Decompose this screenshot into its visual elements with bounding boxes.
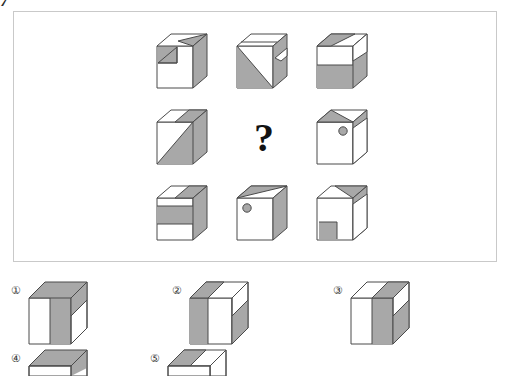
answer-option-4[interactable]: ④ <box>11 346 97 376</box>
answer-options: ① ② <box>0 270 509 367</box>
matrix-cell-r2c1[interactable] <box>144 100 224 176</box>
cube-r3c3 <box>313 182 375 246</box>
matrix-cell-r3c1[interactable] <box>144 176 224 252</box>
matrix-cell-r1c3[interactable] <box>304 24 384 100</box>
answer-option-5-cube <box>164 346 236 376</box>
cube-option-2 <box>186 278 258 348</box>
matrix-panel: ? <box>13 11 497 262</box>
answer-option-1-label: ① <box>11 278 25 296</box>
matrix-cell-r2c2-missing[interactable]: ? <box>224 100 304 176</box>
cube-option-5 <box>164 346 236 376</box>
cube-r2c3 <box>313 106 375 170</box>
answer-option-4-label: ④ <box>11 346 25 364</box>
corner-mark-text: 7 <box>0 0 14 8</box>
answer-option-4-cube <box>25 346 97 376</box>
answer-option-1[interactable]: ① <box>11 278 97 348</box>
answer-option-2-label: ② <box>172 278 186 296</box>
answer-option-1-cube <box>25 278 97 348</box>
answer-option-2[interactable]: ② <box>172 278 258 348</box>
matrix-cell-r1c1[interactable] <box>144 24 224 100</box>
matrix-cell-r3c2[interactable] <box>224 176 304 252</box>
page-corner-mark: 7 <box>0 0 14 8</box>
answer-option-3-cube <box>347 278 419 348</box>
matrix-cell-r3c3[interactable] <box>304 176 384 252</box>
matrix-cell-r1c2[interactable] <box>224 24 304 100</box>
answer-option-3[interactable]: ③ <box>333 278 419 348</box>
question-mark: ? <box>254 118 274 158</box>
cube-option-4 <box>25 346 97 376</box>
cube-r3c2 <box>233 182 295 246</box>
answer-option-5[interactable]: ⑤ <box>150 346 236 376</box>
cube-option-1 <box>25 278 97 348</box>
matrix-cell-r2c3[interactable] <box>304 100 384 176</box>
cube-r1c2 <box>233 30 295 94</box>
cube-r3c1 <box>153 182 215 246</box>
answer-option-3-label: ③ <box>333 278 347 296</box>
cube-r2c1 <box>153 106 215 170</box>
gray-dot <box>243 204 251 212</box>
cube-option-3 <box>347 278 419 348</box>
answer-option-5-label: ⑤ <box>150 346 164 364</box>
matrix-grid: ? <box>144 24 384 252</box>
gray-dot <box>339 127 347 135</box>
cube-r1c3 <box>313 30 375 94</box>
cube-r1c1 <box>153 30 215 94</box>
answer-option-2-cube <box>186 278 258 348</box>
